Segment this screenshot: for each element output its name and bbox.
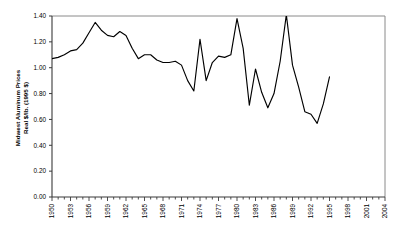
- x-tick-label: 1995: [326, 204, 333, 219]
- x-tick-label: 1989: [289, 204, 296, 219]
- chart-background: [0, 0, 407, 240]
- y-axis-label-line2: Real $/lb. (1995 $): [22, 82, 29, 134]
- x-tick-label: 1953: [67, 204, 74, 219]
- chart-canvas: Midwest Aluminum Prices Real $/lb. (1995…: [0, 0, 407, 240]
- y-tick-label: 0.20: [34, 167, 47, 174]
- x-tick-label: 1998: [344, 204, 351, 219]
- y-axis-label-line1: Midwest Aluminum Prices: [14, 69, 21, 146]
- x-tick-label: 2001: [363, 204, 370, 219]
- x-tick-label: 1977: [215, 204, 222, 219]
- x-tick-label: 1983: [252, 204, 259, 219]
- x-tick-label: 1992: [307, 204, 314, 219]
- y-tick-label: 1.40: [34, 12, 47, 19]
- x-tick-label: 1971: [178, 204, 185, 219]
- x-tick-label: 1962: [122, 204, 129, 219]
- x-tick-label: 1968: [159, 204, 166, 219]
- y-tick-label: 0.00: [34, 193, 47, 200]
- x-tick-label: 1965: [141, 204, 148, 219]
- aluminum-price-chart: Midwest Aluminum Prices Real $/lb. (1995…: [0, 0, 407, 240]
- x-tick-label: 1959: [104, 204, 111, 219]
- x-tick-label: 1986: [270, 204, 277, 219]
- y-tick-label: 0.80: [34, 90, 47, 97]
- y-tick-label: 0.60: [34, 116, 47, 123]
- y-tick-label: 0.40: [34, 142, 47, 149]
- x-tick-label: 1950: [48, 204, 55, 219]
- y-tick-label: 1.00: [34, 64, 47, 71]
- x-tick-label: 1980: [233, 204, 240, 219]
- x-tick-label: 2004: [381, 204, 388, 219]
- y-tick-label: 1.20: [34, 38, 47, 45]
- x-tick-label: 1956: [85, 204, 92, 219]
- x-tick-label: 1974: [196, 204, 203, 219]
